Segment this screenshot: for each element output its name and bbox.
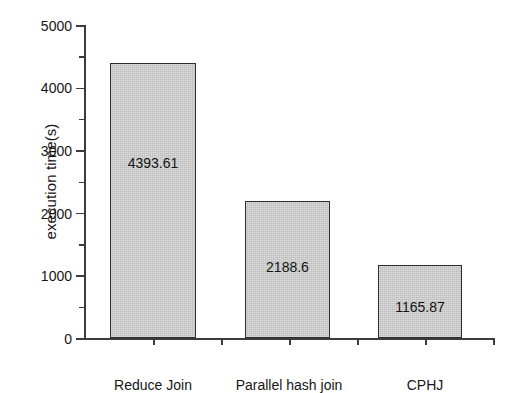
y-tick-5000: 5000 [76, 25, 84, 27]
y-minor-tick-500 [79, 307, 84, 309]
y-tick-label-2000: 2000 [41, 206, 72, 222]
y-tick-label-4000: 4000 [41, 80, 72, 96]
y-tick-4000: 4000 [76, 88, 84, 90]
y-axis-label: execution time(s) [40, 25, 62, 338]
plot-area: 0 1000 2000 3000 4000 5000 4393 [84, 25, 495, 338]
bar-cphj[interactable]: 1165.87 [378, 265, 462, 338]
y-minor-tick-1500 [79, 244, 84, 246]
x-tick-6 [493, 338, 495, 345]
bar-chart-figure: execution time(s) 0 1000 2000 3000 4000 … [0, 0, 521, 393]
y-minor-tick-3500 [79, 119, 84, 121]
y-minor-tick-2500 [79, 182, 84, 184]
bar-value-parallel-hash-join: 2188.6 [266, 259, 309, 275]
x-category-label-reduce-join: Reduce Join [114, 377, 192, 393]
y-tick-0: 0 [76, 338, 84, 340]
y-tick-label-0: 0 [64, 331, 72, 347]
x-tick-1 [153, 338, 155, 345]
x-tick-2 [221, 338, 223, 345]
bar-parallel-hash-join[interactable]: 2188.6 [245, 201, 330, 338]
bar-value-cphj: 1165.87 [395, 299, 445, 315]
x-tick-5 [425, 338, 427, 345]
x-tick-4 [357, 338, 359, 345]
bar-reduce-join[interactable]: 4393.61 [110, 63, 196, 338]
bar-value-reduce-join: 4393.61 [128, 155, 179, 171]
x-category-label-cphj: CPHJ [407, 377, 444, 393]
y-minor-tick-4500 [79, 56, 84, 58]
y-tick-label-5000: 5000 [41, 18, 72, 34]
x-tick-3 [289, 338, 291, 345]
x-category-label-parallel-hash-join: Parallel hash join [236, 377, 343, 393]
y-tick-1000: 1000 [76, 275, 84, 277]
y-tick-label-3000: 3000 [41, 143, 72, 159]
y-axis-spine [84, 25, 86, 338]
y-tick-label-1000: 1000 [41, 268, 72, 284]
y-tick-3000: 3000 [76, 150, 84, 152]
y-tick-2000: 2000 [76, 213, 84, 215]
